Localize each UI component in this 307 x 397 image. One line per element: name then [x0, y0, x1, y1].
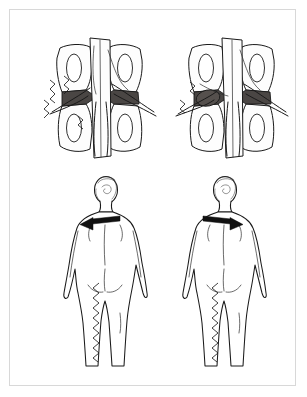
- pain-zigzag-1: [50, 80, 55, 103]
- page-frame: [9, 9, 296, 386]
- neck: [218, 201, 232, 212]
- figure-body-right: [173, 173, 278, 368]
- pain-zigzag-2: [44, 100, 49, 118]
- foramen-lower-left: [199, 114, 214, 142]
- foramen-upper-left: [199, 54, 214, 82]
- figure-body-left: [58, 173, 163, 368]
- neck: [99, 201, 113, 212]
- figure-spine-right: [170, 28, 295, 168]
- foramen-lower-left: [67, 114, 82, 142]
- body-outline: [64, 212, 147, 366]
- figure-spine-left: [38, 28, 163, 168]
- foramen-lower-right: [250, 114, 265, 142]
- illustration-page: [0, 0, 307, 397]
- foramen-upper-right: [250, 54, 265, 82]
- foramen-upper-left: [67, 54, 82, 82]
- foramen-lower-right: [118, 114, 133, 142]
- body-outline: [183, 212, 266, 366]
- pain-zigzag-2: [180, 100, 185, 113]
- foramen-upper-right: [118, 54, 133, 82]
